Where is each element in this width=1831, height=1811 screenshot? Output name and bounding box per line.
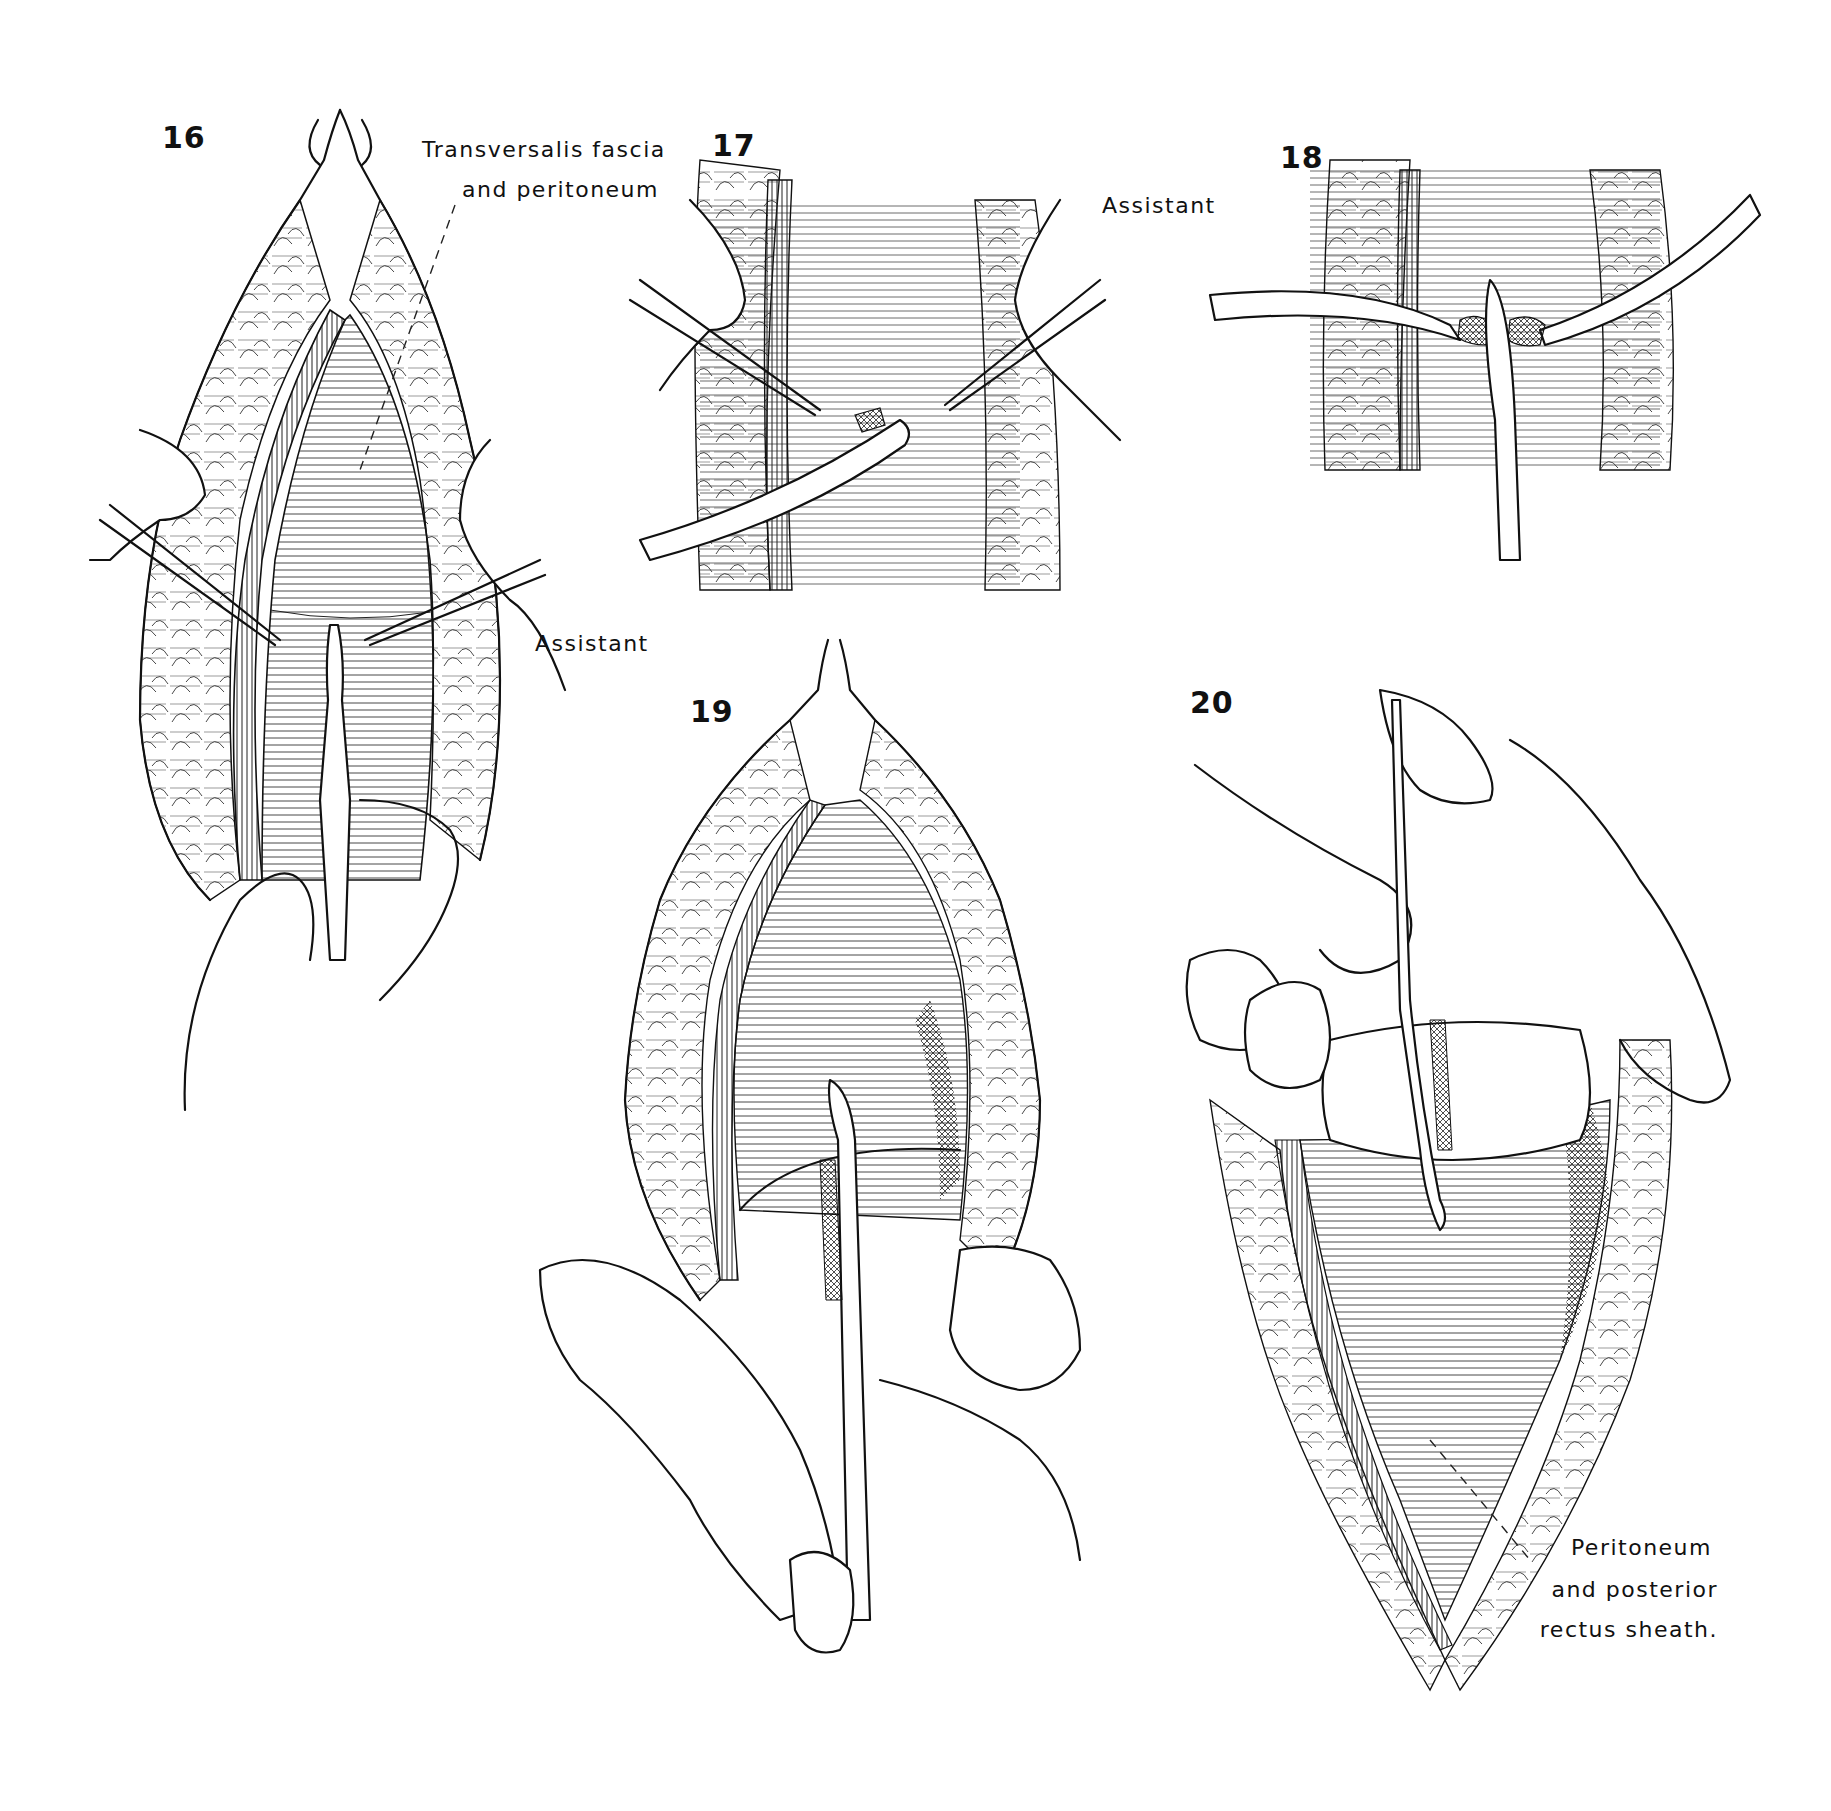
figure-19-drawing (540, 640, 1080, 1653)
figure-17-number: 17 (712, 128, 756, 163)
figure-18-number: 18 (1280, 140, 1324, 175)
illustration-artwork (0, 0, 1831, 1811)
figure-18-drawing (1210, 160, 1760, 560)
surgical-illustration-plate: 16 Transversalis fascia and peritoneum A… (0, 0, 1831, 1811)
figure-17-drawing (630, 160, 1120, 590)
figure-19-number: 19 (690, 694, 734, 729)
figure-20-label-line3: rectus sheath. (1520, 1612, 1718, 1648)
figure-20-label-line2: and posterior (1530, 1572, 1718, 1608)
figure-17-label-assistant: Assistant (1102, 188, 1216, 224)
figure-16-label-assistant: Assistant (535, 626, 649, 662)
figure-16-number: 16 (162, 120, 206, 155)
figure-16-label-fascia-line2: and peritoneum (462, 172, 659, 208)
figure-20-label-line1: Peritoneum (1560, 1530, 1712, 1566)
figure-16-drawing (90, 110, 565, 1110)
figure-20-number: 20 (1190, 685, 1234, 720)
figure-16-label-fascia-line1: Transversalis fascia (422, 132, 666, 168)
